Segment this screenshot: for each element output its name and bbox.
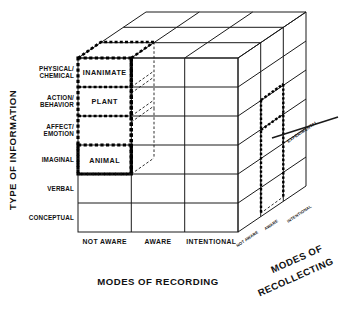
- col-label-aware: AWARE: [145, 238, 172, 245]
- x-axis-title: MODES OF RECORDING: [97, 276, 218, 287]
- row-label-affect-emotion-l1: AFFECT/: [46, 123, 74, 130]
- row-label-verbal: VERBAL: [47, 185, 74, 192]
- cell-plant: PLANT: [91, 97, 118, 106]
- cell-animal: ANIMAL: [89, 156, 120, 165]
- col-label-intentional: INTENTIONAL: [186, 238, 236, 245]
- col-label-not-aware: NOT AWARE: [82, 238, 127, 245]
- y-axis-title: TYPE OF INFORMATION: [7, 90, 18, 210]
- row-labels: PHYSICAL/ CHEMICAL ACTION/ BEHAVIOR AFFE…: [29, 65, 75, 221]
- row-label-imaginal: IMAGINAL: [42, 156, 74, 163]
- cube-diagram: TYPE OF INFORMATION PHYSICAL/ CHEMICAL A…: [0, 0, 361, 309]
- row-label-action-behavior-l1: ACTION/: [47, 94, 74, 101]
- depth-label-not-aware: NOT AWARE: [235, 229, 259, 248]
- row-label-physical-chemical-l1: PHYSICAL/: [39, 65, 74, 72]
- highlight-region: [78, 42, 154, 174]
- row-label-action-behavior-l2: BEHAVIOR: [40, 101, 74, 108]
- column-labels: NOT AWARE AWARE INTENTIONAL: [82, 238, 236, 245]
- row-label-physical-chemical-l2: CHEMICAL: [40, 72, 74, 79]
- depth-label-intentional: INTENTIONAL: [286, 203, 313, 223]
- figure-canvas: TYPE OF INFORMATION PHYSICAL/ CHEMICAL A…: [0, 0, 361, 309]
- row-label-affect-emotion-l2: EMOTION: [44, 130, 75, 137]
- depth-label-aware: AWARE: [263, 218, 279, 231]
- depth-highlight-region: [261, 84, 283, 213]
- row-label-conceptual: CONCEPTUAL: [29, 214, 74, 221]
- cell-inanimate: INANIMATE: [83, 68, 127, 77]
- z-axis-title: MODES OF RECOLLECTING: [256, 243, 335, 299]
